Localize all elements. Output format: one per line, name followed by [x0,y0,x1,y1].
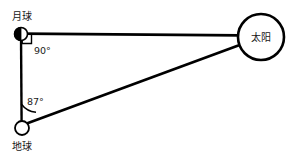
earth-angle-label: 87° [27,96,44,107]
earth-label: 地球 [12,140,32,152]
earth-circle [15,121,29,135]
sun-label: 太阳 [251,31,271,43]
segment-earth-sun [24,45,241,125]
segment-moon-earth [21,34,22,122]
earth-body [15,121,29,135]
moon-angle-label: 90° [34,45,51,56]
triangle-segments [21,34,241,125]
moon-label: 月球 [12,10,32,22]
diagram-canvas: 月球 地球 太阳 90° 87° [0,0,293,157]
segment-moon-sun [22,34,240,36]
moon-body [15,28,28,41]
astronomy-triangle-diagram: 月球 地球 太阳 90° 87° [0,0,293,157]
